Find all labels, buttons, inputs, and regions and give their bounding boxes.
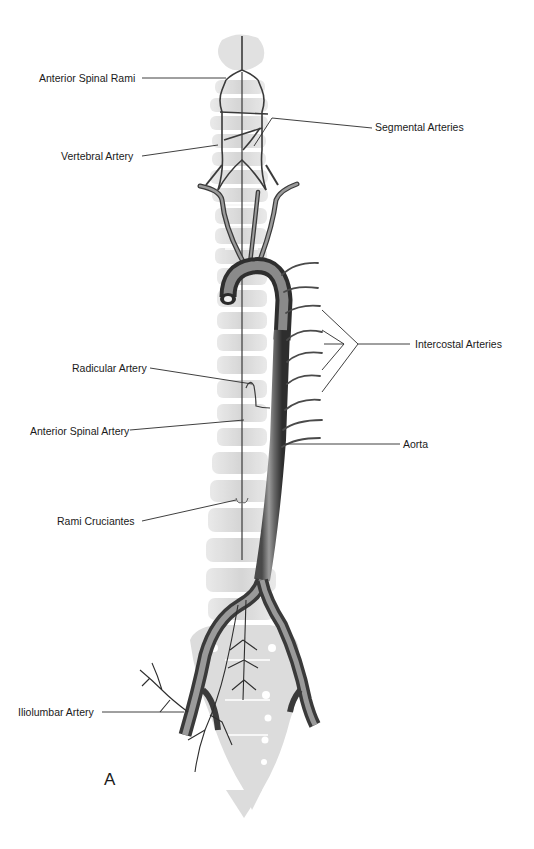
label-iliolumbar-artery: Iliolumbar Artery [18, 706, 94, 718]
panel-letter: A [104, 770, 115, 790]
label-vertebral-artery: Vertebral Artery [61, 150, 133, 162]
label-rami-cruciantes: Rami Cruciantes [57, 515, 135, 527]
label-segmental-arteries: Segmental Arteries [375, 121, 464, 133]
label-anterior-spinal-artery: Anterior Spinal Artery [30, 425, 129, 437]
label-radicular-artery: Radicular Artery [72, 362, 147, 374]
label-anterior-spinal-rami: Anterior Spinal Rami [39, 72, 135, 84]
label-intercostal-arteries: Intercostal Arteries [415, 338, 502, 350]
label-aorta: Aorta [403, 438, 428, 450]
